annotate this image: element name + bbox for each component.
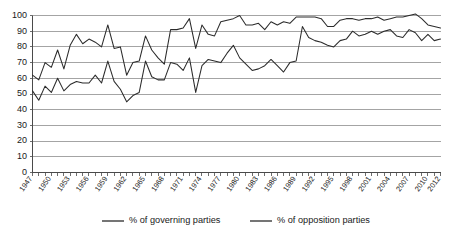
x-axis-label: 2004 [375,174,392,193]
y-axis-label: 10 [17,151,27,161]
x-axis-label: 1974 [187,174,204,193]
legend-label: % of opposition parties [277,215,370,225]
x-axis-label: 1953 [55,174,72,193]
x-axis-label: 1983 [243,174,260,193]
x-axis-label: 1965 [130,174,147,193]
y-gridlines [33,16,441,173]
x-axis-label: 1980 [224,174,241,193]
chart-legend: % of governing parties% of opposition pa… [102,215,370,225]
y-axis-label: 20 [17,135,27,145]
x-axis-label: 1947 [17,174,34,193]
x-axis-label: 1968 [149,174,166,193]
y-axis-tick-labels: 0102030405060708090100 [12,10,27,177]
x-axis-label: 1959 [93,174,110,193]
x-axis-label: 1986 [262,174,279,193]
chart-svg: 0102030405060708090100 19471950195319561… [0,0,461,240]
x-axis-label: 2007 [394,174,411,193]
x-axis-tick-labels: 1947195019531956195919621965196819711974… [17,174,442,193]
series-line-opposition-parties [33,26,441,101]
chart-page: 0102030405060708090100 19471950195319561… [0,0,461,240]
line-chart-figure: 0102030405060708090100 19471950195319561… [0,0,461,240]
y-axis-label: 40 [17,104,27,114]
x-axis-label: 1992 [300,174,317,193]
y-axis-line [30,16,33,173]
data-series-group [33,14,441,102]
x-axis-label: 1962 [111,174,128,193]
y-axis-label: 70 [17,57,27,67]
legend-item[interactable]: % of opposition parties [250,215,370,225]
y-axis-label: 80 [17,41,27,51]
x-axis-label: 2012 [425,174,442,193]
legend-label: % of governing parties [129,215,221,225]
x-axis-label: 1998 [337,174,354,193]
x-axis-label: 1971 [168,174,185,193]
y-axis-label: 60 [17,73,27,83]
y-axis-label: 100 [12,10,27,20]
x-axis-label: 1989 [281,174,298,193]
x-axis-label: 2001 [356,174,373,193]
x-axis-label: 1956 [74,174,91,193]
x-axis-label: 1977 [206,174,223,193]
legend-item[interactable]: % of governing parties [102,215,221,225]
y-axis-label: 90 [17,26,27,36]
x-axis-label: 1995 [319,174,336,193]
y-axis-label: 30 [17,120,27,130]
y-axis-label: 50 [17,88,27,98]
x-axis-label: 1950 [36,174,53,193]
